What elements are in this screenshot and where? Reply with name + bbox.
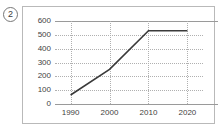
x-axis-tick-label: 2000 bbox=[101, 109, 119, 117]
x-axis-tick-label: 2020 bbox=[179, 109, 197, 117]
y-axis-tick-label: 0 bbox=[47, 100, 51, 108]
series-line-chart bbox=[55, 21, 218, 104]
plot-area: 0100200300400500600 1990200020102020 bbox=[55, 21, 203, 104]
figure-index-badge: 2 bbox=[3, 7, 18, 22]
x-axis-tick-label: 2010 bbox=[140, 109, 158, 117]
series-line-path bbox=[71, 31, 188, 95]
figure-index-label: 2 bbox=[8, 10, 13, 19]
chart-frame: 0100200300400500600 1990200020102020 bbox=[22, 6, 215, 124]
y-axis-tick-label: 300 bbox=[38, 59, 51, 67]
y-axis-tick-label: 500 bbox=[38, 31, 51, 39]
y-axis-tick-label: 600 bbox=[38, 17, 51, 25]
x-axis-tick-label: 1990 bbox=[62, 109, 80, 117]
gridline-horizontal bbox=[55, 104, 218, 105]
y-axis-tick-label: 100 bbox=[38, 86, 51, 94]
y-axis-tick-label: 200 bbox=[38, 72, 51, 80]
figure-container: 2 0100200300400500600 1990200020102020 bbox=[0, 0, 218, 128]
y-axis-tick-label: 400 bbox=[38, 45, 51, 53]
